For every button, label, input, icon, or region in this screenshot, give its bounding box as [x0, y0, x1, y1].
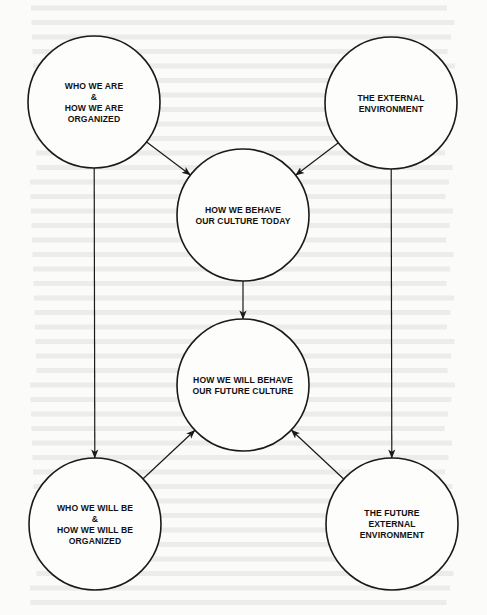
node-label-line: &	[92, 514, 98, 524]
node-label-line: ORGANIZED	[68, 114, 120, 124]
arrow-who-we-are-to-who-we-will-be	[94, 168, 95, 458]
arrow-external-environment-to-culture-today	[296, 143, 339, 175]
node-who-we-are: WHO WE ARE&HOW WE AREORGANIZED	[28, 36, 160, 168]
node-label-line: THE FUTURE	[364, 508, 420, 518]
node-label-line: WHO WE ARE	[65, 81, 124, 91]
node-label-line: WHO WE WILL BE	[57, 503, 133, 513]
node-label-line: OUR FUTURE CULTURE	[193, 386, 294, 396]
node-future-culture: HOW WE WILL BEHAVEOUR FUTURE CULTURE	[177, 319, 309, 451]
node-label-line: HOW WE WILL BEHAVE	[193, 375, 293, 385]
node-label-line: THE EXTERNAL	[357, 93, 424, 103]
node-future-external-environment: THE FUTUREEXTERNALENVIRONMENT	[326, 458, 458, 590]
arrow-who-we-are-to-culture-today	[147, 142, 191, 175]
node-culture-today: HOW WE BEHAVEOUR CULTURE TODAY	[177, 149, 309, 281]
node-external-environment: THE EXTERNALENVIRONMENT	[325, 37, 457, 169]
node-label-line: ENVIRONMENT	[360, 530, 425, 540]
arrow-external-environment-to-future-external-environment	[391, 169, 392, 458]
node-label-line: HOW WE ARE	[65, 103, 124, 113]
node-label-line: OUR CULTURE TODAY	[195, 216, 290, 226]
node-label-line: ENVIRONMENT	[359, 104, 424, 114]
culture-flow-diagram: WHO WE ARE&HOW WE AREORGANIZEDTHE EXTERN…	[0, 0, 487, 615]
node-label-line: HOW WE WILL BE	[57, 525, 133, 535]
node-label-line: EXTERNAL	[368, 519, 415, 529]
node-label-line: &	[91, 92, 97, 102]
node-label-line: HOW WE BEHAVE	[205, 205, 281, 215]
node-who-we-will-be: WHO WE WILL BE&HOW WE WILL BEORGANIZED	[29, 458, 161, 590]
node-label-line: ORGANIZED	[69, 536, 121, 546]
